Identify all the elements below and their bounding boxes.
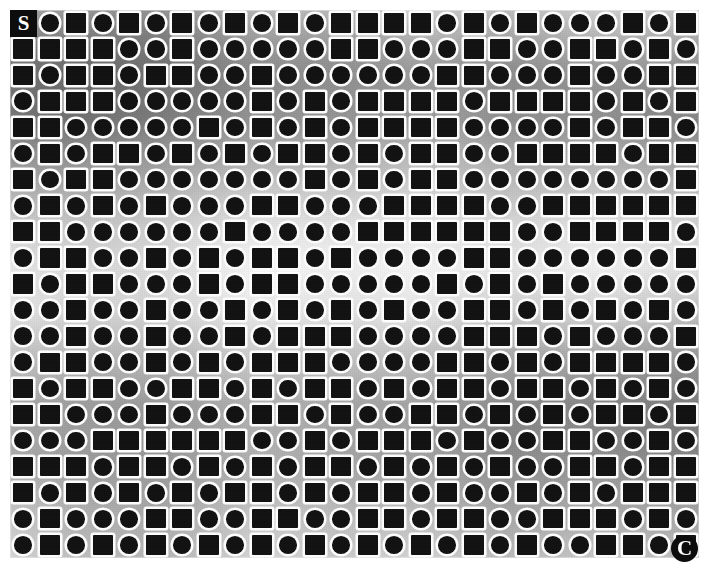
square-shape [623,196,643,215]
square-shape [199,535,219,554]
square-shape [596,196,616,215]
circle-shape [491,197,509,215]
grid-cell [143,62,170,88]
grid-cell [673,323,700,349]
circle-shape [226,119,244,137]
square-shape [66,66,86,85]
grid-cell [540,193,567,219]
square-shape [384,431,404,450]
grid-cell [434,323,461,349]
grid-cell [275,10,302,36]
grid-cell [487,10,514,36]
circle-shape [359,66,377,84]
grid-cell [37,36,64,62]
circle-shape [94,406,112,424]
grid-cell [249,193,276,219]
square-shape [305,431,325,450]
square-shape [623,353,643,372]
circle-shape [438,249,456,267]
square-shape [358,13,378,32]
grid-cell [63,140,90,166]
square-shape [199,118,219,137]
square-shape [252,535,272,554]
grid-cell [567,271,594,297]
square-shape [676,327,696,346]
grid-cell [222,114,249,140]
square-shape [596,405,616,424]
grid-cell [63,36,90,62]
circle-shape [94,327,112,345]
grid-cell [408,271,435,297]
square-shape [66,327,86,346]
square-shape [570,353,590,372]
grid-cell [249,480,276,506]
square-shape [490,405,510,424]
grid-cell [646,349,673,375]
grid-cell [673,506,700,532]
square-shape [517,92,537,111]
grid-cell [381,349,408,375]
grid-cell [143,532,170,558]
grid-cell [487,297,514,323]
grid-cell [408,480,435,506]
grid-cell [514,271,541,297]
square-shape [676,248,696,267]
grid-cell [116,349,143,375]
grid-cell [302,480,329,506]
circle-shape [120,406,138,424]
grid-cell [196,36,223,62]
square-shape [358,431,378,450]
grid-cell [222,62,249,88]
circle-shape [226,406,244,424]
grid-cell [328,140,355,166]
square-shape [464,39,484,58]
square-shape [146,196,166,215]
circle-shape [173,171,191,189]
grid-cell [487,245,514,271]
grid-cell [593,297,620,323]
square-shape [437,170,457,189]
square-shape [40,92,60,111]
grid-cell [355,428,382,454]
square-shape [93,196,113,215]
circle-shape [120,66,138,84]
grid-cell [222,428,249,454]
circle-shape [120,275,138,293]
grid-cell [222,480,249,506]
grid-cell [646,245,673,271]
grid-cell [487,114,514,140]
circle-shape [624,301,642,319]
circle-shape [438,327,456,345]
grid-cell [10,532,37,558]
circle-shape [544,14,562,32]
grid-cell [646,297,673,323]
square-shape [305,483,325,502]
circle-shape [67,197,85,215]
grid-cell [116,428,143,454]
square-shape [172,39,192,58]
grid-cell [196,10,223,36]
grid-cell [222,219,249,245]
square-shape [146,66,166,85]
square-shape [278,405,298,424]
grid-cell [673,140,700,166]
circle-shape [597,92,615,110]
circle-shape [544,484,562,502]
circle-shape [173,353,191,371]
square-shape [517,353,537,372]
circle-shape [41,275,59,293]
square-shape [331,327,351,346]
grid-cell [355,88,382,114]
circle-shape [332,432,350,450]
square-shape [490,327,510,346]
grid-cell [249,532,276,558]
circle-shape [226,249,244,267]
grid-cell [461,401,488,427]
square-shape [649,39,669,58]
grid-cell [302,88,329,114]
marker-label-s: S [10,10,37,37]
grid-cell [673,62,700,88]
grid-cell [90,88,117,114]
square-shape [411,13,431,32]
square-shape [517,13,537,32]
